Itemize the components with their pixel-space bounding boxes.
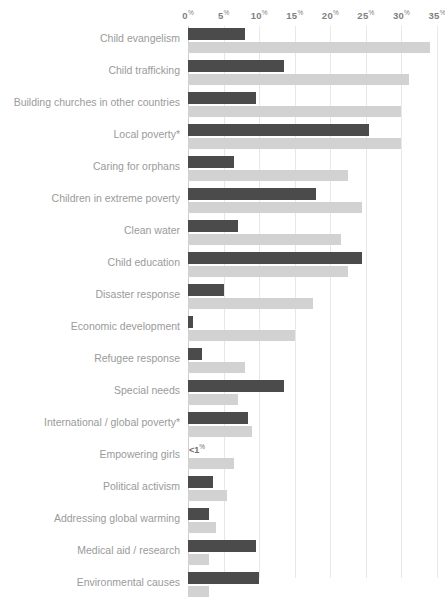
category-label: Clean water — [0, 224, 180, 236]
x-tick-label-20: 20% — [322, 9, 339, 21]
bar-light — [188, 426, 252, 437]
x-tick-label-0: 0% — [182, 9, 193, 21]
bar-group — [188, 60, 437, 92]
percent-sign: % — [223, 9, 229, 16]
bar-dark — [188, 380, 284, 392]
category-label: Empowering girls — [0, 448, 180, 460]
category-label: Special needs — [0, 384, 180, 396]
bar-dark — [188, 92, 256, 104]
bar-group — [188, 476, 437, 508]
bar-group — [188, 92, 437, 124]
bar-dark — [188, 284, 224, 296]
x-tick-label-30: 30% — [393, 9, 410, 21]
bar-light — [188, 202, 362, 213]
category-label-column: Child evangelismChild traffickingBuildin… — [0, 26, 180, 578]
bar-group: <1% — [188, 444, 437, 476]
category-label: International / global poverty* — [0, 416, 180, 428]
bar-group — [188, 540, 437, 572]
bar-dark — [188, 124, 369, 136]
tick-value: 15 — [286, 10, 297, 21]
category-label: Refugee response — [0, 352, 180, 364]
bar-light — [188, 522, 216, 533]
bar-light — [188, 234, 341, 245]
plot-area: <1% — [188, 26, 437, 578]
bar-light — [188, 298, 313, 309]
bar-dark — [188, 540, 256, 552]
bar-group — [188, 316, 437, 348]
tick-value: 30 — [393, 10, 404, 21]
bar-light — [188, 490, 227, 501]
bar-light — [188, 266, 348, 277]
percent-sign: % — [333, 9, 339, 16]
category-label: Disaster response — [0, 288, 180, 300]
bar-group — [188, 572, 437, 601]
percent-sign: % — [404, 9, 410, 16]
percent-sign: % — [262, 9, 268, 16]
bar-dark — [188, 412, 248, 424]
bar-dark — [188, 476, 213, 488]
bar-group — [188, 188, 437, 220]
x-tick-label-25: 25% — [357, 9, 374, 21]
bar-group — [188, 284, 437, 316]
tick-value: 35 — [429, 10, 440, 21]
bar-light — [188, 138, 401, 149]
percent-sign: % — [369, 9, 375, 16]
bar-light — [188, 586, 209, 597]
bar-group — [188, 380, 437, 412]
category-label: Medical aid / research — [0, 544, 180, 556]
x-tick-label-35: 35% — [429, 9, 445, 21]
bar-group — [188, 28, 437, 60]
note-text: <1 — [189, 445, 199, 455]
category-label: Child education — [0, 256, 180, 268]
tick-value: 25 — [357, 10, 368, 21]
category-label: Political activism — [0, 480, 180, 492]
gridline-35 — [437, 26, 438, 578]
category-label: Local poverty* — [0, 128, 180, 140]
bar-light — [188, 74, 409, 85]
bar-dark — [188, 348, 202, 360]
bar-group — [188, 252, 437, 284]
bar-dark — [188, 28, 245, 40]
bar-light — [188, 42, 430, 53]
category-label: Environmental causes — [0, 576, 180, 588]
category-label: Child evangelism — [0, 32, 180, 44]
bar-dark — [188, 60, 284, 72]
bar-group — [188, 220, 437, 252]
bar-light — [188, 170, 348, 181]
bar-group — [188, 412, 437, 444]
bar-dark — [188, 188, 316, 200]
bar-light — [188, 394, 238, 405]
percent-sign: % — [297, 9, 303, 16]
bar-light — [188, 554, 209, 565]
x-tick-label-15: 15% — [286, 9, 303, 21]
tick-value: 20 — [322, 10, 333, 21]
percent-sign: % — [199, 443, 205, 450]
bar-group — [188, 508, 437, 540]
bar-dark — [188, 572, 259, 584]
bar-dark — [188, 156, 234, 168]
bar-light — [188, 362, 245, 373]
category-label: Child trafficking — [0, 64, 180, 76]
bar-light — [188, 330, 295, 341]
x-axis-ticks: 0%5%10%15%20%25%30%35% — [0, 9, 437, 25]
x-tick-label-10: 10% — [251, 9, 268, 21]
bar-value-note: <1% — [189, 443, 205, 455]
bar-group — [188, 348, 437, 380]
percent-sign: % — [188, 9, 194, 16]
category-label: Addressing global warming — [0, 512, 180, 524]
bar-dark — [188, 252, 362, 264]
percent-sign: % — [440, 9, 445, 16]
bar-light — [188, 106, 401, 117]
bar-group — [188, 124, 437, 156]
bar-light — [188, 458, 234, 469]
bar-dark — [188, 220, 238, 232]
category-label: Children in extreme poverty — [0, 192, 180, 204]
bar-dark — [188, 508, 209, 520]
tick-value: 10 — [251, 10, 262, 21]
bar-dark — [188, 316, 193, 328]
category-label: Economic development — [0, 320, 180, 332]
category-label: Caring for orphans — [0, 160, 180, 172]
category-label: Building churches in other countries — [0, 96, 180, 108]
x-tick-label-5: 5% — [218, 9, 229, 21]
